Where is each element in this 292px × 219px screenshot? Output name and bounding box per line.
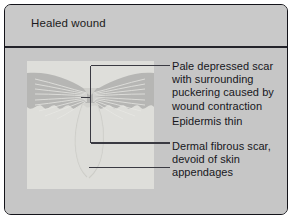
annotation-dermal-fibrous-scar: Dermal fibrous scar, devoid of skin appe… [172,140,288,180]
figure-title-bar: Healed wound [5,5,287,46]
annotation-epidermis-thin: Epidermis thin [172,115,288,128]
annotation-pale-depressed-scar: Pale depressed scar with surrounding puc… [172,60,288,113]
healed-wound-illustration [23,57,156,191]
figure-card: Healed wound [4,4,288,215]
figure-body: Pale depressed scar with surrounding puc… [5,48,287,214]
figure-title: Healed wound [31,17,106,29]
